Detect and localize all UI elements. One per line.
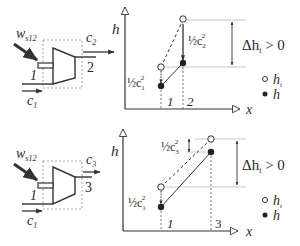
delta-ht-label: Δht > 0 <box>242 37 285 55</box>
turbine-icon <box>53 48 75 84</box>
legend-filled-circle-icon <box>263 213 268 218</box>
ke1-label: ½c12 <box>128 194 146 212</box>
legend-open-circle-icon <box>263 198 268 203</box>
tick-label-1: 1 <box>167 94 174 109</box>
work-label: ws12 <box>16 26 36 43</box>
total-enthalpy-point <box>208 136 214 142</box>
shaft-icon <box>38 183 53 188</box>
shaft-icon <box>38 63 53 68</box>
diagram: ws12 1 c1 2 c2 h x ½c12 ½c22 1 2 Δh <box>0 0 300 246</box>
tick-label-3: 3 <box>215 216 222 231</box>
bottom-turbine: ws12 1 c1 3 c3 <box>14 146 100 230</box>
static-enthalpy-point <box>158 83 164 89</box>
bottom-enthalpy-chart: h x ½c12 ½c32 1 3 Δht > 0 ht h <box>111 129 285 239</box>
x-axis-label: x <box>245 224 253 239</box>
top-enthalpy-chart: h x ½c12 ½c22 1 2 Δht > 0 ht h <box>112 7 285 117</box>
legend-h-label: h <box>273 87 280 102</box>
delta-ht-label: Δht > 0 <box>242 157 285 175</box>
ke1-label: ½c12 <box>127 74 145 92</box>
outlet-station-label: 3 <box>85 180 92 195</box>
inlet-velocity-label: c1 <box>27 93 37 110</box>
outlet-velocity-label: c2 <box>86 30 96 47</box>
tick-label-2: 2 <box>187 94 194 109</box>
legend-filled-circle-icon <box>263 92 268 97</box>
outlet-velocity-label: c3 <box>86 152 96 169</box>
ke2-label: ½c22 <box>188 32 206 50</box>
total-enthalpy-point <box>158 184 164 190</box>
tick-label-1: 1 <box>167 216 174 231</box>
inlet-station-label: 1 <box>30 188 37 203</box>
inlet-velocity-label: c1 <box>27 213 37 230</box>
total-enthalpy-point <box>158 64 164 70</box>
inlet-station-label: 1 <box>30 68 37 83</box>
legend-h-label: h <box>273 208 280 223</box>
work-arrow-icon <box>14 164 37 180</box>
static-enthalpy-point <box>208 149 214 155</box>
top-turbine: ws12 1 c1 2 c2 <box>14 26 114 110</box>
ke3-label: ½c32 <box>161 138 179 156</box>
total-enthalpy-line <box>161 20 183 67</box>
static-enthalpy-point <box>180 60 186 66</box>
legend-open-circle-icon <box>263 77 268 82</box>
turbine-icon <box>53 167 75 204</box>
x-axis-label: x <box>245 102 253 117</box>
y-axis-label: h <box>112 21 120 37</box>
static-enthalpy-point <box>158 204 164 210</box>
y-axis-label: h <box>111 143 119 159</box>
work-label: ws12 <box>16 146 36 163</box>
work-arrow-icon <box>14 44 37 60</box>
outlet-station-label: 2 <box>87 60 94 75</box>
static-enthalpy-line <box>161 152 211 207</box>
total-enthalpy-point <box>180 16 186 22</box>
